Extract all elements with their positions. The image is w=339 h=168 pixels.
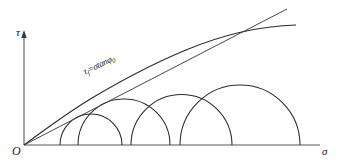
x-axis-label-sigma: σ bbox=[322, 146, 327, 157]
origin-label: O bbox=[12, 145, 21, 157]
mohr-circle-4 bbox=[180, 85, 300, 145]
mohr-circle-1 bbox=[60, 114, 122, 145]
curved-failure-envelope bbox=[24, 25, 296, 145]
mohr-diagram-canvas bbox=[0, 0, 339, 168]
y-axis-arrow-icon bbox=[21, 30, 26, 38]
y-axis-label-tau: τ bbox=[16, 27, 20, 38]
mohr-circle-3 bbox=[131, 95, 232, 146]
linear-failure-envelope bbox=[24, 9, 287, 145]
mohr-coulomb-figure: τ O σ τf=σtanφ0 bbox=[0, 0, 339, 168]
mohr-circle-2 bbox=[78, 99, 170, 145]
